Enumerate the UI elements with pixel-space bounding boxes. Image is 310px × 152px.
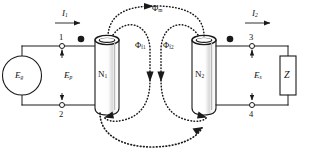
terminal-label-4: 4	[249, 110, 253, 119]
primary-coil-label: N1	[98, 70, 107, 80]
terminal-label-3: 3	[249, 33, 253, 42]
bottom-return-flux-path	[100, 113, 202, 147]
primary-polarity-dot	[78, 36, 85, 43]
leakage-flux-secondary-label: Φf2	[163, 41, 174, 50]
mutual-flux-label: Φm	[152, 4, 162, 13]
secondary-voltage-label: Es	[254, 71, 262, 81]
generator-label: Eg	[15, 71, 23, 81]
secondary-polarity-dot	[227, 36, 234, 43]
secondary-current-label: I2	[252, 9, 258, 19]
load-label: Z	[284, 70, 290, 80]
diagram-canvas	[0, 0, 310, 152]
terminal-label-2: 2	[59, 110, 63, 119]
transformer-diagram: Eg 1 2 3 4 Ep Es I1 I2 N1 N2 Φm Φf1 Φf2 …	[0, 0, 310, 152]
primary-voltage-label: Ep	[64, 71, 72, 81]
leakage-flux-primary-label: Φf1	[135, 41, 146, 50]
secondary-coil-label: N2	[195, 70, 204, 80]
primary-current-label: I1	[62, 9, 68, 19]
terminal-label-1: 1	[59, 33, 63, 42]
